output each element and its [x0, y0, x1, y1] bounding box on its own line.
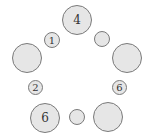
circle-right-small: 6	[112, 80, 127, 95]
circle-bottom-middle-small	[69, 109, 85, 125]
circle-upper-right-small	[94, 31, 110, 47]
circle-left-small: 2	[28, 80, 43, 95]
circle-label: 6	[41, 111, 49, 125]
circle-bottom-right-big	[93, 102, 123, 132]
circle-right-big	[112, 43, 142, 73]
circle-top: 4	[62, 5, 92, 35]
circle-bottom-left-big: 6	[30, 103, 60, 133]
circle-label: 6	[116, 82, 122, 93]
circle-label: 4	[73, 13, 81, 27]
circle-upper-left-small: 1	[44, 32, 60, 48]
circle-left-big	[12, 43, 42, 73]
circle-label: 2	[32, 82, 38, 93]
circle-label: 1	[49, 35, 55, 46]
